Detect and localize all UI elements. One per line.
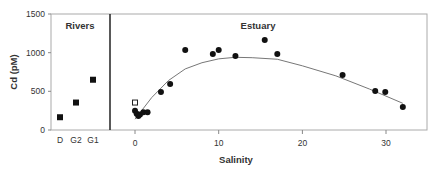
fit-curve bbox=[135, 57, 403, 119]
x-tick-D: D bbox=[57, 135, 63, 145]
estuary-point bbox=[232, 53, 238, 59]
x-tick-20: 20 bbox=[298, 138, 308, 148]
chart: 1500 1000 500 0 Cd (pM) D G2 G1 0 10 20 … bbox=[0, 0, 437, 174]
estuary-point bbox=[274, 51, 280, 57]
y-tick-1000: 1000 bbox=[26, 48, 45, 58]
estuary-point bbox=[340, 72, 346, 78]
estuary-point bbox=[216, 47, 222, 53]
rivers-x-axis: D G2 G1 bbox=[57, 135, 99, 145]
estuary-x-axis: 0 10 20 30 Salinity bbox=[133, 130, 391, 165]
estuary-point bbox=[158, 89, 164, 95]
x-tick-G1: G1 bbox=[87, 135, 99, 145]
river-point bbox=[57, 114, 63, 120]
estuary-point bbox=[382, 89, 388, 95]
open-square-point bbox=[133, 100, 138, 105]
x-tick-10: 10 bbox=[214, 138, 224, 148]
x-tick-30: 30 bbox=[381, 138, 391, 148]
estuary-point bbox=[262, 37, 268, 43]
rivers-title: Rivers bbox=[65, 20, 94, 31]
x-axis-label: Salinity bbox=[219, 154, 254, 165]
estuary-point bbox=[210, 51, 216, 57]
y-tick-0: 0 bbox=[40, 125, 45, 135]
y-axis: 1500 1000 500 0 Cd (pM) bbox=[8, 9, 51, 135]
estuary-point bbox=[145, 109, 151, 115]
y-tick-1500: 1500 bbox=[26, 9, 45, 19]
x-tick-G2: G2 bbox=[70, 135, 82, 145]
river-point bbox=[90, 77, 96, 83]
plot-frame bbox=[51, 14, 427, 130]
estuary-point bbox=[400, 104, 406, 110]
x-tick-0: 0 bbox=[133, 138, 138, 148]
estuary-point bbox=[167, 81, 173, 87]
estuary-point bbox=[182, 47, 188, 53]
river-point bbox=[73, 100, 79, 106]
estuary-title: Estuary bbox=[241, 20, 277, 31]
y-tick-500: 500 bbox=[31, 86, 45, 96]
estuary-point bbox=[372, 88, 378, 94]
y-axis-label: Cd (pM) bbox=[8, 54, 19, 89]
